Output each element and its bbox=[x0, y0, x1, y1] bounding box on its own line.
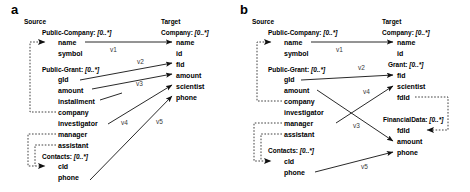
target-class-grant: Grant: [0..*] bbox=[388, 61, 423, 68]
target-field-fid: fid bbox=[397, 72, 406, 79]
source-field-amount: amount bbox=[284, 87, 309, 94]
mapping-label-v5: v5 bbox=[361, 163, 368, 170]
source-field-phone: phone bbox=[284, 169, 305, 176]
mapping-label-v5: v5 bbox=[156, 118, 163, 125]
source-header: Source bbox=[252, 18, 274, 25]
target-field-amount: amount bbox=[397, 138, 422, 145]
reference-link-fdid bbox=[415, 97, 448, 130]
mapping-label-v4: v4 bbox=[363, 88, 370, 95]
panel-b: b Source Target Public-Company: [0..*] n… bbox=[235, 0, 470, 192]
class-name: Contacts bbox=[42, 153, 70, 160]
reference-link-manager bbox=[254, 123, 282, 161]
class-name: Contacts bbox=[268, 147, 296, 154]
reference-link-company bbox=[30, 42, 56, 112]
source-class-public-company: Public-Company: [0..*] bbox=[268, 29, 337, 36]
target-field-fdid: fdId bbox=[397, 94, 410, 101]
class-name: Company bbox=[382, 29, 412, 36]
class-cardinality: [0..*] bbox=[323, 29, 337, 36]
source-field-installment: installment bbox=[58, 98, 95, 105]
target-field-name: name bbox=[176, 39, 194, 46]
reference-link-manager bbox=[28, 134, 56, 166]
source-field-company: company bbox=[284, 98, 315, 105]
mapping-edge-v3 bbox=[317, 90, 393, 141]
source-field-manager: manager bbox=[58, 131, 87, 138]
target-class-company: Company: [0..*] bbox=[382, 29, 430, 36]
source-class-public-company: Public-Company: [0..*] bbox=[42, 29, 111, 36]
target-class-company: Company: [0..*] bbox=[161, 29, 209, 36]
source-field-assistant: assistant bbox=[284, 131, 314, 138]
target-field-id: id bbox=[397, 50, 403, 57]
target-field-phone: phone bbox=[397, 149, 418, 156]
target-field-name: name bbox=[397, 39, 415, 46]
class-name: Public-Grant bbox=[42, 66, 81, 73]
class-name: Public-Company bbox=[42, 29, 93, 36]
mapping-edge-v2 bbox=[301, 75, 393, 80]
source-field-investigator: investigator bbox=[58, 120, 98, 127]
mapping-label-v2: v2 bbox=[137, 58, 144, 65]
mapping-label-v2: v2 bbox=[358, 64, 365, 71]
source-field-amount: amount bbox=[58, 87, 83, 94]
source-field-investigator: investigator bbox=[284, 109, 324, 116]
target-field-id: id bbox=[176, 50, 182, 57]
source-field-gid: gId bbox=[58, 76, 69, 83]
target-field-phone: phone bbox=[176, 94, 197, 101]
target-header: Target bbox=[161, 18, 180, 25]
target-field-amount: amount bbox=[176, 72, 201, 79]
mapping-label-v3: v3 bbox=[353, 122, 360, 129]
mapping-edge-v5 bbox=[90, 96, 172, 180]
source-header: Source bbox=[24, 18, 46, 25]
source-class-public-grant: Public-Grant: [0..*] bbox=[42, 66, 99, 73]
class-cardinality: [0..*] bbox=[85, 66, 99, 73]
mapping-label-v4: v4 bbox=[121, 119, 128, 126]
source-class-public-grant: Public-Grant: [0..*] bbox=[268, 66, 325, 73]
source-class-contacts: Contacts: [0..*] bbox=[268, 147, 314, 154]
class-cardinality: [0..*] bbox=[300, 147, 314, 154]
class-name: FinancialData bbox=[383, 116, 425, 123]
target-field-scientist: scientist bbox=[176, 83, 204, 90]
class-cardinality: [0..*] bbox=[74, 153, 88, 160]
panel-letter-b: b bbox=[240, 2, 248, 17]
class-cardinality: [0..*] bbox=[97, 29, 111, 36]
target-header: Target bbox=[382, 18, 401, 25]
class-cardinality: [0..*] bbox=[311, 66, 325, 73]
mapping-edge-v5 bbox=[315, 152, 393, 172]
source-field-assistant: assistant bbox=[58, 142, 88, 149]
mapping-label-v1: v1 bbox=[336, 46, 343, 53]
class-name: Grant bbox=[388, 61, 405, 68]
source-field-company: company bbox=[58, 109, 89, 116]
class-name: Company bbox=[161, 29, 191, 36]
source-field-symbol: symbol bbox=[284, 50, 309, 57]
source-class-contacts: Contacts: [0..*] bbox=[42, 153, 88, 160]
source-field-gid: gId bbox=[284, 76, 295, 83]
source-field-name: name bbox=[58, 39, 76, 46]
source-field-cid: cId bbox=[284, 158, 294, 165]
mapping-label-v3: v3 bbox=[136, 80, 143, 87]
target-class-financialdata: FinancialData: [0..*] bbox=[383, 116, 443, 123]
mapping-label-v1: v1 bbox=[110, 46, 117, 53]
target-field-scientist: scientist bbox=[397, 83, 425, 90]
class-cardinality: [0..*] bbox=[195, 29, 209, 36]
source-field-name: name bbox=[284, 39, 302, 46]
panel-letter-a: a bbox=[11, 2, 18, 17]
class-cardinality: [0..*] bbox=[416, 29, 430, 36]
source-field-manager: manager bbox=[284, 120, 313, 127]
source-field-phone: phone bbox=[58, 174, 79, 181]
panel-a: a Source Target Public-Company: [0..*] n… bbox=[0, 0, 235, 192]
class-name: Public-Grant bbox=[268, 66, 307, 73]
class-name: Public-Company bbox=[268, 29, 319, 36]
source-field-cid: cId bbox=[58, 163, 68, 170]
mapping-edge-v3 bbox=[92, 74, 172, 89]
target-field-fdid-financial: fdId bbox=[397, 127, 410, 134]
source-field-symbol: symbol bbox=[58, 50, 83, 57]
target-field-fid: fid bbox=[176, 61, 185, 68]
mapping-edge-installment-stub bbox=[100, 93, 122, 100]
class-cardinality: [0..*] bbox=[409, 61, 423, 68]
class-cardinality: [0..*] bbox=[429, 116, 443, 123]
